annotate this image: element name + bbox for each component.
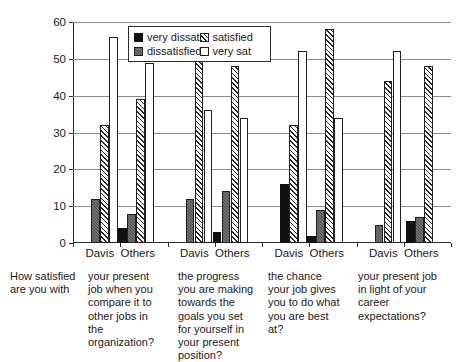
y-tick-mark-50 <box>69 59 73 60</box>
y-tick-mark-20 <box>69 169 73 170</box>
y-tick-label-20: 20 <box>53 163 66 175</box>
y-tick-mark-10 <box>69 206 73 207</box>
bar-very-dissat-others-g2 <box>213 232 222 243</box>
x-label-davis: Davis <box>85 247 114 259</box>
bar-very-sat-others-g2 <box>240 118 249 243</box>
x-label-others: Others <box>310 247 345 259</box>
x-tick-mark <box>262 243 263 247</box>
x-label-davis: Davis <box>369 247 398 259</box>
bar-satisfied-others-g2 <box>231 66 240 243</box>
caption-stem: How satisfied are you with <box>10 270 80 296</box>
x-tick-mark <box>168 243 169 247</box>
bar-very-sat-davis-g1 <box>109 37 118 243</box>
legend-row: very dissat satisfied <box>134 30 265 44</box>
x-label-others: Others <box>404 247 439 259</box>
bar-very-dissat-others-g4 <box>406 221 415 243</box>
y-tick-label-30: 30 <box>53 127 66 139</box>
y-tick-label-40: 40 <box>53 90 66 102</box>
bar-very-sat-davis-g2 <box>204 110 213 243</box>
bar-very-sat-davis-g3 <box>298 51 307 243</box>
legend-item-satisfied: satisfied <box>200 32 266 43</box>
legend-item-very-sat: very sat <box>200 46 266 57</box>
x-label-davis: Davis <box>274 247 303 259</box>
x-tick-mark <box>451 243 452 247</box>
y-tick-mark-40 <box>69 96 73 97</box>
bar-dissatisfied-others-g4 <box>415 217 424 243</box>
bar-very-sat-davis-g4 <box>393 51 402 243</box>
caption-column-1: your present job when you compare it to … <box>88 270 166 349</box>
bar-dissatisfied-others-g2 <box>222 191 231 243</box>
bar-satisfied-davis-g4 <box>384 81 393 243</box>
x-tick-mark <box>357 243 358 247</box>
legend-label-satisfied: satisfied <box>213 32 253 43</box>
bar-very-sat-others-g3 <box>334 118 343 243</box>
y-tick-label-0: 0 <box>60 237 66 249</box>
bar-dissatisfied-others-g3 <box>316 210 325 243</box>
legend-swatch-very-dissat-icon <box>134 33 143 42</box>
y-tick-label-60: 60 <box>53 16 66 28</box>
y-tick-label-10: 10 <box>53 200 66 212</box>
legend-swatch-very-sat-icon <box>200 47 209 56</box>
bar-dissatisfied-davis-g4 <box>375 225 384 243</box>
x-label-davis: Davis <box>180 247 209 259</box>
caption-column-3: the chance your job gives you to do what… <box>268 270 346 336</box>
bar-satisfied-davis-g1 <box>100 125 109 243</box>
bar-satisfied-davis-g2 <box>195 51 204 243</box>
x-group-label-4: Davis Others <box>364 247 444 259</box>
bar-very-sat-others-g1 <box>145 63 154 243</box>
x-label-others: Others <box>215 247 250 259</box>
legend-label-very-dissat: very dissat <box>147 32 200 43</box>
bar-very-dissat-others-g1 <box>118 228 127 243</box>
bar-satisfied-others-g4 <box>424 66 433 243</box>
legend-swatch-dissatisfied-icon <box>134 47 143 56</box>
legend-swatch-satisfied-icon <box>200 33 209 42</box>
bar-satisfied-davis-g3 <box>289 125 298 243</box>
x-group-label-3: Davis Others <box>269 247 349 259</box>
legend-row: dissatisfied very sat <box>134 44 265 58</box>
bar-dissatisfied-davis-g2 <box>186 199 195 243</box>
x-label-others: Others <box>121 247 156 259</box>
caption-column-4: your present job in light of your career… <box>358 270 438 323</box>
caption-column-2: the progress you are making towards the … <box>178 270 258 362</box>
bar-dissatisfied-others-g1 <box>127 214 136 243</box>
y-tick-mark-60 <box>69 22 73 23</box>
chart-legend: very dissat satisfied dissatisfied very … <box>128 26 271 62</box>
legend-label-very-sat: very sat <box>213 46 252 57</box>
y-tick-label-50: 50 <box>53 53 66 65</box>
legend-item-very-dissat: very dissat <box>134 32 200 43</box>
legend-label-dissatisfied: dissatisfied <box>147 46 201 57</box>
x-group-label-1: Davis Others <box>80 247 160 259</box>
bar-dissatisfied-davis-g1 <box>91 199 100 243</box>
legend-item-dissatisfied: dissatisfied <box>134 46 200 57</box>
x-tick-mark <box>73 243 74 247</box>
gridline-60 <box>73 22 451 23</box>
bar-satisfied-others-g3 <box>325 29 334 243</box>
x-group-label-2: Davis Others <box>175 247 255 259</box>
bar-very-dissat-davis-g3 <box>280 184 289 243</box>
bar-very-dissat-others-g3 <box>307 236 316 243</box>
y-tick-mark-30 <box>69 133 73 134</box>
bar-satisfied-others-g1 <box>136 99 145 243</box>
